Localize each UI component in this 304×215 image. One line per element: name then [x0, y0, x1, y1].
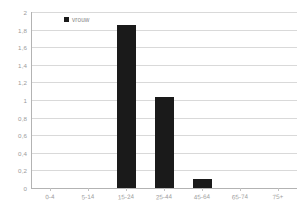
x-tick-mark: [126, 188, 127, 191]
x-axis-ticks: [31, 188, 297, 192]
x-tick-mark: [240, 188, 241, 191]
y-tick-label: 0: [23, 185, 27, 192]
y-tick-label: 1: [23, 97, 27, 104]
legend-label-vrouw: vrouw: [72, 16, 90, 23]
y-tick-label: 2: [23, 9, 27, 16]
chart-legend: vrouw: [64, 16, 90, 23]
x-tick-label: 15-24: [118, 192, 135, 200]
bar: [155, 97, 174, 188]
y-tick-label: 0,8: [18, 114, 27, 121]
y-tick-label: 0,6: [18, 132, 27, 139]
x-tick-label: 0-4: [45, 193, 55, 201]
x-tick-mark: [202, 188, 203, 191]
x-tick-mark: [278, 188, 279, 191]
y-tick-label: 1,2: [18, 79, 27, 86]
x-tick-label: 5-14: [81, 193, 94, 201]
bars-layer: [31, 12, 297, 188]
x-tick-label: 65-74: [232, 192, 249, 200]
legend-swatch-vrouw: [64, 17, 69, 22]
x-tick-label: 75+: [272, 193, 283, 201]
x-tick-mark: [88, 188, 89, 191]
bar: [193, 179, 212, 188]
y-tick-label: 1,4: [18, 61, 27, 68]
x-tick-mark: [164, 188, 165, 191]
y-tick-label: 0,2: [18, 167, 27, 174]
bar: [117, 25, 136, 188]
x-tick-mark: [50, 188, 51, 191]
x-axis-labels: 0-45-1415-2425-4445-6465-7475+: [31, 193, 297, 213]
x-tick-label: 45-64: [194, 192, 211, 200]
y-tick-label: 0,4: [18, 149, 27, 156]
x-tick-label: 25-44: [156, 192, 173, 200]
bar-chart: 00,20,40,60,811,21,41,61,82 0-45-1415-24…: [0, 0, 304, 215]
y-tick-label: 1,6: [18, 44, 27, 51]
y-axis-labels: 00,20,40,60,811,21,41,61,82: [0, 12, 27, 188]
y-tick-label: 1,8: [18, 26, 27, 33]
